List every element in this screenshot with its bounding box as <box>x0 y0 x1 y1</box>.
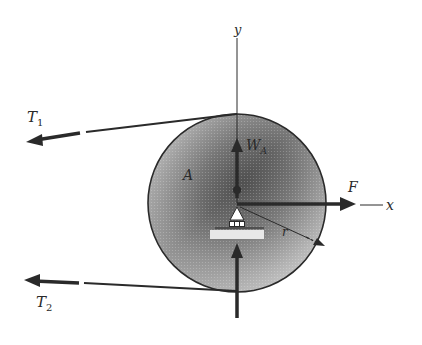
force-f-label: F <box>347 179 359 195</box>
t2-label: T2 <box>36 293 52 313</box>
x-axis-label: x <box>386 197 394 213</box>
body-label-a: A <box>181 167 193 183</box>
y-axis-label: y <box>233 22 242 37</box>
pulley-diagram: y T1 T2 WA A F x r <box>0 0 422 345</box>
t1-label: T1 <box>27 108 43 128</box>
